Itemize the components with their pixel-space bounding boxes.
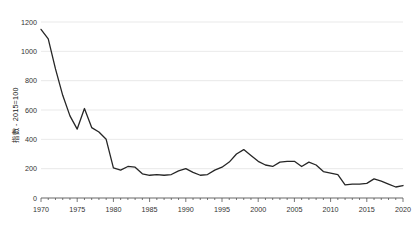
x-axis-tick-label: 2005: [286, 205, 302, 214]
x-axis-tick-label: 2000: [250, 205, 266, 214]
x-axis-tick-label: 1975: [69, 205, 85, 214]
x-axis-tick-label: 1990: [178, 205, 194, 214]
chart-canvas: 0200400600800100012001970197519801985199…: [0, 0, 414, 231]
y-axis-tick-label: 800: [25, 76, 37, 85]
y-axis-tick-label: 0: [33, 194, 37, 203]
y-axis-title-text: 指數 - 2015=100: [10, 87, 20, 142]
x-axis-tick-label: 1985: [142, 205, 158, 214]
chart-background: [0, 0, 414, 231]
y-axis-tick-label: 600: [25, 106, 37, 115]
x-axis-tick-label: 2020: [395, 205, 411, 214]
line-chart: 0200400600800100012001970197519801985199…: [0, 0, 414, 231]
y-axis-tick-label: 1000: [21, 47, 37, 56]
y-axis-title: 指數 - 2015=100: [8, 60, 22, 170]
x-axis-tick-label: 2010: [323, 205, 339, 214]
x-axis-tick-label: 1980: [105, 205, 121, 214]
x-axis-tick-label: 2015: [359, 205, 375, 214]
x-axis-tick-label: 1995: [214, 205, 230, 214]
y-axis-tick-label: 200: [25, 164, 37, 173]
x-axis-tick-label: 1970: [33, 205, 49, 214]
y-axis-tick-label: 400: [25, 135, 37, 144]
y-axis-tick-label: 1200: [21, 18, 37, 27]
